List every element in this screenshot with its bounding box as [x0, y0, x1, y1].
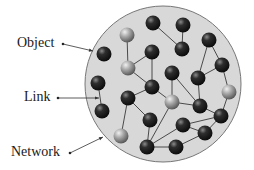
object-node: [114, 129, 129, 144]
object-node: [140, 140, 155, 155]
object-node: [143, 113, 158, 128]
object-node: [145, 80, 160, 95]
pointer-line: [70, 137, 103, 153]
object-node: [175, 42, 190, 57]
object-node: [95, 104, 110, 119]
arrowhead-icon: [99, 137, 103, 140]
object-node: [214, 109, 229, 124]
object-node: [191, 71, 206, 86]
object-node: [145, 45, 160, 60]
label-link: Link: [24, 90, 50, 104]
object-node: [169, 140, 184, 155]
object-node: [176, 18, 191, 33]
label-network: Network: [11, 145, 60, 159]
object-node: [202, 33, 217, 48]
object-node: [176, 118, 191, 133]
object-node: [165, 66, 180, 81]
object-node: [120, 28, 135, 43]
label-object: Object: [17, 36, 54, 50]
object-node: [198, 126, 213, 141]
object-node: [222, 85, 237, 100]
object-node: [121, 61, 136, 76]
object-node: [165, 95, 180, 110]
object-node: [146, 16, 161, 31]
object-node: [215, 58, 230, 73]
network-boundary: [85, 6, 241, 162]
pointer-line: [63, 44, 93, 51]
object-node: [121, 91, 136, 106]
object-node: [97, 47, 112, 62]
object-node: [91, 76, 106, 91]
object-node: [193, 99, 208, 114]
